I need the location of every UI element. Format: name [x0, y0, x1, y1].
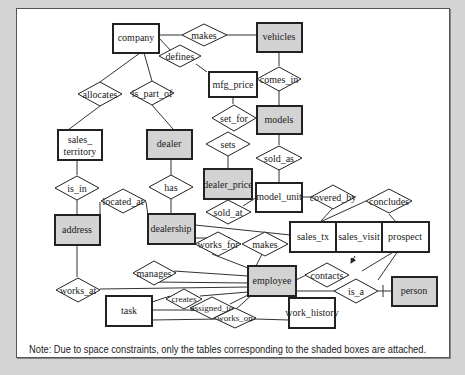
svg-text:person: person — [401, 285, 428, 296]
svg-text:models: models — [265, 114, 294, 125]
relationship-is-in[interactable]: is_in — [55, 176, 99, 200]
relationship-allocates[interactable]: allocates — [78, 82, 122, 106]
relationship-located-at[interactable]: located_at — [101, 189, 146, 213]
relationship-makes-company-vehicles[interactable]: makes — [182, 24, 227, 46]
svg-text:contacts: contacts — [311, 270, 344, 281]
svg-text:territory: territory — [64, 146, 97, 157]
svg-text:is_a: is_a — [348, 286, 365, 297]
svg-text:sold_as: sold_as — [264, 153, 294, 164]
relationship-is-a[interactable]: is_a — [334, 279, 378, 303]
relationship-works-for[interactable]: works_for — [195, 232, 241, 256]
svg-text:sales_: sales_ — [68, 134, 93, 145]
svg-text:work_history: work_history — [285, 307, 338, 318]
relationship-makes-employee[interactable]: makes — [242, 232, 288, 256]
relationship-is-part-of[interactable]: is_part_of — [130, 81, 174, 105]
svg-text:sold_at: sold_at — [214, 207, 243, 218]
svg-text:comes_in: comes_in — [260, 74, 298, 85]
svg-text:has: has — [164, 182, 177, 193]
entity-sales-visit[interactable]: sales_visit — [336, 222, 382, 252]
svg-text:prospect: prospect — [388, 231, 422, 242]
svg-text:mfg_price: mfg_price — [212, 79, 254, 90]
entity-dealer[interactable]: dealer — [147, 130, 192, 159]
entity-company[interactable]: company — [113, 24, 159, 53]
svg-text:concludes: concludes — [369, 196, 409, 207]
svg-text:works_at: works_at — [60, 285, 97, 296]
svg-text:sales_visit: sales_visit — [338, 231, 380, 242]
svg-text:works_on: works_on — [217, 313, 253, 323]
entity-sales-tx[interactable]: sales_tx — [290, 222, 336, 252]
relationship-has[interactable]: has — [149, 175, 193, 199]
relationship-defines[interactable]: defines — [159, 45, 201, 67]
svg-text:works_for: works_for — [197, 239, 239, 250]
entity-task[interactable]: task — [106, 296, 152, 326]
svg-text:manages: manages — [137, 268, 172, 279]
svg-text:vehicles: vehicles — [263, 31, 296, 42]
relationship-works-at[interactable]: works_at — [56, 278, 100, 302]
svg-text:located_at: located_at — [102, 196, 143, 207]
entity-mfg-price[interactable]: mfg_price — [209, 72, 257, 97]
entity-employee[interactable]: employee — [248, 266, 296, 296]
entities: company vehicles mfg_price models sales_… — [55, 23, 437, 328]
entity-dealer-price[interactable]: dealer_price — [203, 169, 253, 199]
relationship-sold-at[interactable]: sold_at — [206, 200, 251, 224]
relationship-comes-in[interactable]: comes_in — [257, 67, 301, 91]
svg-text:dealership: dealership — [150, 223, 191, 234]
relationship-contacts[interactable]: contacts — [305, 263, 349, 287]
svg-text:sales_tx: sales_tx — [297, 231, 329, 242]
relationship-concludes[interactable]: concludes — [366, 189, 412, 213]
entity-sales-territory[interactable]: sales_ territory — [58, 130, 102, 160]
entity-models[interactable]: models — [257, 106, 302, 134]
entity-prospect[interactable]: prospect — [382, 222, 429, 252]
relationship-sold-as[interactable]: sold_as — [256, 146, 302, 170]
svg-text:address: address — [62, 224, 92, 235]
entity-vehicles[interactable]: vehicles — [257, 23, 302, 52]
svg-text:dealer_price: dealer_price — [203, 179, 253, 190]
relationship-manages[interactable]: manages — [133, 261, 176, 285]
svg-text:is_in: is_in — [67, 183, 86, 194]
svg-text:model_unit: model_unit — [256, 191, 302, 202]
svg-text:is_part_of: is_part_of — [132, 88, 173, 99]
relationship-set-for[interactable]: set_for — [212, 105, 256, 131]
svg-text:covered_by: covered_by — [310, 192, 357, 203]
entity-address[interactable]: address — [55, 215, 100, 245]
entity-work-history[interactable]: work_history — [285, 298, 338, 328]
relationship-covered-by[interactable]: covered_by — [310, 185, 357, 209]
er-diagram: company vehicles mfg_price models sales_… — [0, 0, 465, 375]
svg-text:dealer: dealer — [157, 138, 182, 149]
svg-text:allocates: allocates — [83, 89, 118, 100]
svg-text:task: task — [121, 305, 137, 316]
svg-text:employee: employee — [253, 275, 292, 286]
footnote: Note: Due to space constraints, only the… — [29, 344, 426, 355]
svg-text:makes: makes — [252, 239, 278, 250]
relationship-sets[interactable]: sets — [206, 132, 250, 156]
svg-text:sets: sets — [221, 139, 236, 150]
svg-text:defines: defines — [166, 51, 195, 62]
svg-text:company: company — [118, 32, 155, 43]
entity-dealership[interactable]: dealership — [148, 214, 195, 244]
entity-model-unit[interactable]: model_unit — [256, 183, 302, 212]
svg-text:set_for: set_for — [220, 113, 248, 124]
svg-text:makes: makes — [191, 30, 217, 41]
entity-person[interactable]: person — [392, 277, 437, 306]
